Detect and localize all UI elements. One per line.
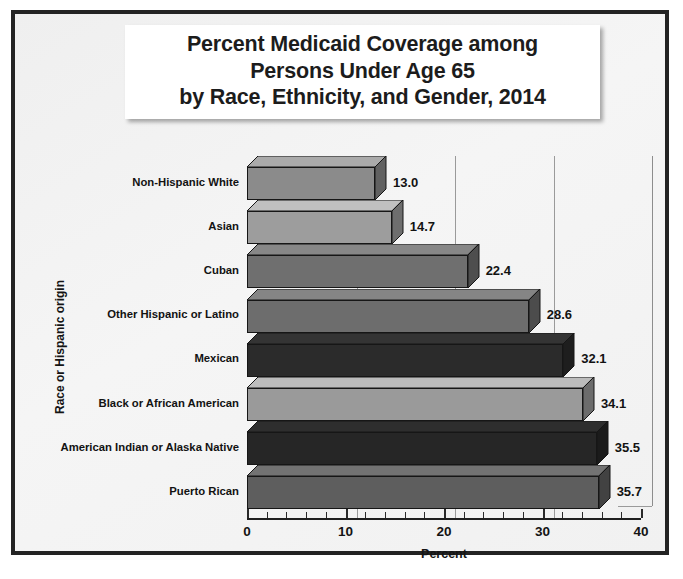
bar-value-label-8: 35.7 <box>617 484 642 499</box>
title-line-2: Persons Under Age 65 <box>129 58 596 85</box>
y-axis-title: Race or Hispanic origin <box>53 280 67 414</box>
tick-16 <box>405 512 406 518</box>
bar-front-face <box>247 432 597 465</box>
tick-26 <box>503 512 504 518</box>
bar-top-face <box>247 421 608 432</box>
bar-front-face <box>247 300 529 333</box>
title-line-1: Percent Medicaid Coverage among <box>129 31 596 58</box>
tick-label-40: 40 <box>621 524 661 539</box>
bar-side-face <box>529 289 542 335</box>
backwall-right-edge <box>652 156 653 506</box>
bar-side-face <box>392 200 405 246</box>
tick-38 <box>621 512 622 518</box>
tick-2 <box>267 512 268 518</box>
bar-value-label-6: 34.1 <box>601 396 626 411</box>
title-line-3: by Race, Ethnicity, and Gender, 2014 <box>129 84 596 111</box>
x-axis-line <box>247 518 641 520</box>
tick-36 <box>602 512 603 518</box>
category-label-1: Non-Hispanic White <box>29 176 239 188</box>
backwall-bottom-edge <box>618 506 652 507</box>
tick-28 <box>523 512 524 518</box>
category-label-8: Puerto Rican <box>29 485 239 497</box>
chart-page: 13.014.722.428.632.134.135.535.7 Non-His… <box>0 0 683 579</box>
tick-20 <box>444 509 446 518</box>
bar-value-label-3: 22.4 <box>486 263 511 278</box>
tick-0 <box>247 509 249 518</box>
x-axis-title: Percent <box>344 547 544 561</box>
bar-top-face <box>247 289 540 300</box>
bar-front-face <box>247 211 392 244</box>
tick-34 <box>582 512 583 518</box>
tick-label-20: 20 <box>424 524 464 539</box>
tick-6 <box>306 512 307 518</box>
bar-value-label-5: 32.1 <box>581 351 606 366</box>
chart-title: Percent Medicaid Coverage among Persons … <box>125 25 600 119</box>
bar-value-label-4: 28.6 <box>547 307 572 322</box>
tick-4 <box>286 512 287 518</box>
bar-value-label-1: 13.0 <box>393 175 418 190</box>
bar-side-face <box>583 377 596 423</box>
bar-front-face <box>247 344 563 377</box>
tick-label-10: 10 <box>326 524 366 539</box>
bar-top-face <box>247 200 403 211</box>
tick-22 <box>464 512 465 518</box>
bar-top-face <box>247 333 574 344</box>
bar-side-face <box>599 465 612 511</box>
chart-frame: 13.014.722.428.632.134.135.535.7 Non-His… <box>11 10 669 555</box>
bar-value-label-2: 14.7 <box>410 219 435 234</box>
category-label-2: Asian <box>29 220 239 232</box>
bar-side-face <box>375 156 388 202</box>
bar-top-face <box>247 465 610 476</box>
category-label-3: Cuban <box>29 264 239 276</box>
tick-label-30: 30 <box>523 524 563 539</box>
tick-12 <box>365 512 366 518</box>
bar-top-face <box>247 156 386 167</box>
bar-top-face <box>247 244 479 255</box>
bar-front-face <box>247 388 583 421</box>
tick-40 <box>641 509 643 518</box>
bar-side-face <box>563 333 576 379</box>
bar-top-face <box>247 377 594 388</box>
tick-30 <box>543 509 545 518</box>
tick-10 <box>346 509 348 518</box>
bar-side-face <box>597 421 610 467</box>
bar-front-face <box>247 476 599 509</box>
tick-14 <box>385 512 386 518</box>
tick-8 <box>326 512 327 518</box>
category-label-7: American Indian or Alaska Native <box>29 441 239 453</box>
tick-24 <box>483 512 484 518</box>
bar-front-face <box>247 167 375 200</box>
bar-value-label-7: 35.5 <box>615 440 640 455</box>
bar-front-face <box>247 255 468 288</box>
tick-18 <box>424 512 425 518</box>
tick-label-0: 0 <box>227 524 267 539</box>
bar-side-face <box>468 244 481 290</box>
tick-32 <box>562 512 563 518</box>
